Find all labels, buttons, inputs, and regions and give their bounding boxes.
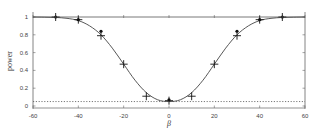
- y-tick-label: 0.8: [20, 32, 29, 38]
- plot-series: [33, 13, 305, 105]
- dot-marker: [258, 18, 261, 21]
- y-tick-label: 1: [25, 14, 29, 20]
- x-tick-label: 20: [211, 113, 218, 119]
- y-axis-label: power: [5, 51, 14, 71]
- dot-marker: [99, 30, 102, 33]
- x-tick-label: -40: [74, 113, 83, 119]
- y-tick-label: 0: [25, 103, 29, 109]
- x-tick-label: -60: [29, 113, 38, 119]
- y-tick-label: 0.4: [20, 67, 29, 73]
- dot-marker: [77, 18, 80, 21]
- power-curve-chart: -60-40-200204060 00.20.40.60.81 β power: [0, 0, 321, 129]
- power-curve-line: [33, 17, 305, 102]
- y-tick-label: 0.2: [20, 85, 29, 91]
- plot-frame: [33, 12, 305, 109]
- y-tick-label: 0.6: [20, 50, 29, 56]
- y-axis-ticks: 00.20.40.60.81: [20, 14, 305, 109]
- x-axis-label: β: [166, 119, 171, 128]
- dot-marker: [235, 30, 238, 33]
- dot-marker: [167, 98, 170, 101]
- x-tick-label: -20: [119, 113, 128, 119]
- x-tick-label: 60: [302, 113, 309, 119]
- x-tick-label: 40: [256, 113, 263, 119]
